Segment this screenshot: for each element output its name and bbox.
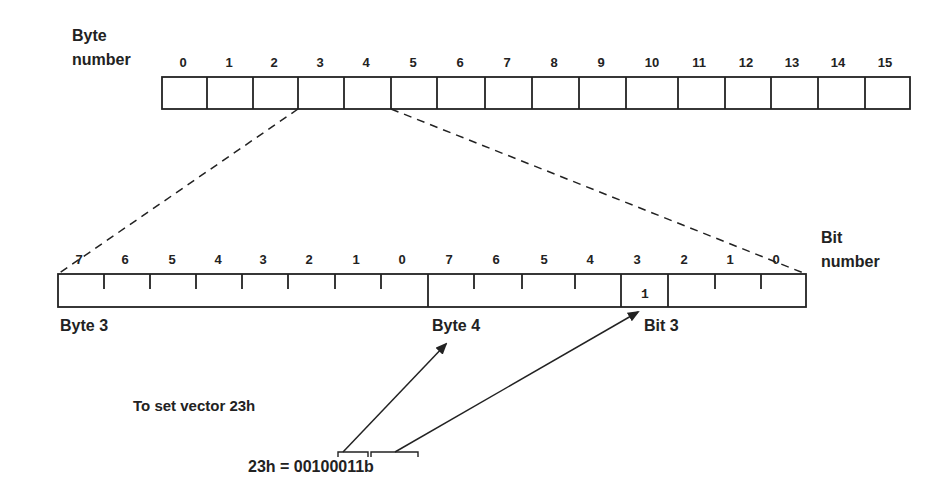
- equation: 23h = 00100011b: [248, 458, 374, 475]
- byte3-bit-0: 0: [398, 252, 405, 267]
- bit-array-outline: [58, 274, 806, 307]
- byte-array-outline: [162, 77, 910, 109]
- byte-axis-label-line2: number: [72, 51, 131, 68]
- byte4-bit-1: 1: [726, 252, 733, 267]
- equation-prefix: 23h =: [248, 458, 294, 475]
- byte4-bit-3: 3: [633, 252, 640, 267]
- byte3-bit-5: 5: [168, 252, 175, 267]
- byte-number-3: 3: [316, 55, 323, 70]
- byte3-bit-3: 3: [259, 252, 266, 267]
- vector-bitmap-diagram: Byte number 0 1 2 3 4 5 6 7 8 9 10 11 12…: [0, 0, 951, 478]
- set-bit-value: 1: [641, 287, 649, 302]
- byte4-bit-0: 0: [772, 252, 779, 267]
- byte-number-9: 9: [597, 55, 604, 70]
- byte4-bit-labels: 7 6 5 4 3 2 1 0: [445, 252, 779, 267]
- equation-binary: 00100011b: [294, 458, 374, 475]
- byte3-bit-2: 2: [305, 252, 312, 267]
- bit-axis-label-line1: Bit: [821, 229, 843, 246]
- byte4-bit-6: 6: [492, 252, 499, 267]
- byte-number-12: 12: [739, 55, 753, 70]
- byte3-bit-1: 1: [352, 252, 359, 267]
- bit-index-bracket: [371, 452, 418, 457]
- byte4-bit-7: 7: [445, 252, 452, 267]
- byte4-bit-2: 2: [680, 252, 687, 267]
- zoom-line-right: [391, 109, 806, 274]
- zoom-line-left: [58, 109, 298, 274]
- byte-number-2: 2: [270, 55, 277, 70]
- byte-number-11: 11: [692, 55, 706, 70]
- bit-array-row: [58, 274, 806, 307]
- byte-number-15: 15: [878, 55, 892, 70]
- byte-index-bracket: [338, 452, 368, 457]
- byte4-label: Byte 4: [432, 317, 480, 334]
- byte-number-14: 14: [831, 55, 846, 70]
- instruction-text: To set vector 23h: [133, 397, 255, 414]
- byte-number-7: 7: [503, 55, 510, 70]
- byte3-bit-labels: 7 6 5 4 3 2 1 0: [75, 252, 405, 267]
- byte-number-labels: 0 1 2 3 4 5 6 7 8 9 10 11 12 13 14 15: [179, 55, 892, 70]
- bit-group-brackets: [338, 452, 418, 457]
- byte-number-1: 1: [225, 55, 232, 70]
- byte-number-13: 13: [785, 55, 799, 70]
- byte-number-4: 4: [362, 55, 370, 70]
- arrow-to-byte4: [343, 344, 446, 452]
- byte3-bit-4: 4: [214, 252, 222, 267]
- byte-number-5: 5: [409, 55, 416, 70]
- byte3-bit-7: 7: [75, 252, 82, 267]
- bit-axis-label-line2: number: [821, 253, 880, 270]
- byte-number-8: 8: [550, 55, 557, 70]
- byte4-bit-4: 4: [586, 252, 594, 267]
- byte-number-10: 10: [645, 55, 659, 70]
- byte-array-row: [162, 77, 910, 109]
- byte-number-0: 0: [179, 55, 186, 70]
- bit3-label: Bit 3: [644, 317, 679, 334]
- byte-axis-label-line1: Byte: [72, 27, 107, 44]
- byte4-bit-5: 5: [540, 252, 547, 267]
- byte3-label: Byte 3: [60, 317, 108, 334]
- byte-number-6: 6: [456, 55, 463, 70]
- byte3-bit-6: 6: [121, 252, 128, 267]
